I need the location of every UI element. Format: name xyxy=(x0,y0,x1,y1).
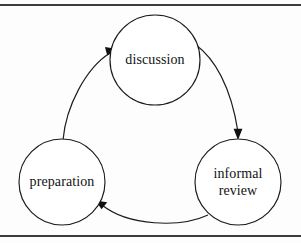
arc-preparation-to-discussion xyxy=(63,53,110,140)
figure-canvas: discussion informal review preparation xyxy=(0,0,301,243)
arrowhead-into-informal-review xyxy=(234,129,243,140)
node-informal-review[interactable]: informal review xyxy=(195,139,281,225)
node-discussion[interactable]: discussion xyxy=(110,15,200,105)
node-preparation[interactable]: preparation xyxy=(19,139,105,225)
node-discussion-label: discussion xyxy=(125,52,184,67)
node-informal-review-circle[interactable] xyxy=(195,139,281,225)
arc-discussion-to-informal-review xyxy=(196,45,238,132)
cycle-diagram: discussion informal review preparation xyxy=(0,0,301,243)
edge-discussion-to-informal-review xyxy=(196,45,242,140)
arc-informal-review-to-preparation xyxy=(102,205,208,223)
edge-preparation-to-discussion xyxy=(63,47,117,140)
node-preparation-label: preparation xyxy=(30,174,95,189)
node-informal-review-label-line2: review xyxy=(219,183,258,198)
node-informal-review-label-line1: informal xyxy=(213,166,262,181)
edge-informal-review-to-preparation xyxy=(96,201,209,224)
